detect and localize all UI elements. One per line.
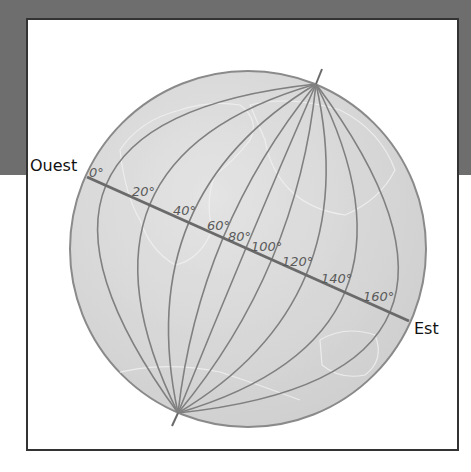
meridian-label: 140° [321,271,352,286]
globe-diagram: 0°20°40°60°80°100°120°140°160° Ouest Est [0,0,471,472]
meridian-label: 160° [363,289,394,304]
south-pole-axis [172,413,178,426]
north-pole-axis [316,69,322,84]
meridian-label: 20° [132,184,155,199]
east-label: Est [414,319,439,338]
meridian-label: 120° [282,254,313,269]
west-label: Ouest [30,156,77,175]
meridian-label: 0° [89,165,104,180]
meridian-label: 40° [173,203,196,218]
meridian-label: 100° [251,239,282,254]
meridian-label: 80° [228,229,251,244]
meridian-label: 60° [207,218,230,233]
